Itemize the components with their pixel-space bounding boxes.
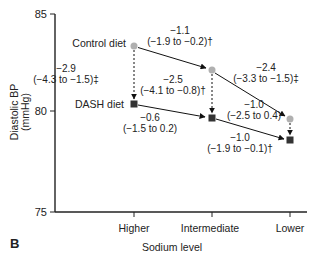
y-tick-85: 85 bbox=[35, 8, 47, 20]
annot-diff-lower-value: −1.0 bbox=[244, 99, 264, 110]
annot-dash-int-low-value: −1.0 bbox=[230, 132, 250, 143]
annot-diff-intermediate-value: −2.5 bbox=[163, 74, 183, 85]
control-point-lower bbox=[287, 116, 294, 123]
dash-point-lower bbox=[287, 137, 294, 144]
x-axis-label: Sodium level bbox=[142, 241, 202, 253]
y-tick-80: 80 bbox=[35, 105, 47, 117]
annot-dash-hi-int-ci: (−1.5 to 0.2) bbox=[123, 123, 177, 134]
annot-control-int-low-ci: (−3.3 to −1.5)‡ bbox=[233, 73, 299, 84]
x-tick-higher: Higher bbox=[119, 222, 150, 234]
dash-point-intermediate bbox=[209, 115, 216, 122]
control-point-higher bbox=[131, 43, 138, 50]
label-dash-diet: DASH diet bbox=[75, 98, 124, 110]
y-tick-75: 75 bbox=[35, 206, 47, 218]
dash-point-higher bbox=[131, 101, 138, 108]
annot-control-int-low-value: −2.4 bbox=[256, 62, 276, 73]
annot-diff-intermediate-ci: (−4.1 to −0.8)† bbox=[140, 85, 206, 96]
y-axis: 85 80 75 Diastolic BP (mmHg) bbox=[8, 8, 55, 218]
x-tick-intermediate: Intermediate bbox=[181, 222, 240, 234]
panel-label: B bbox=[10, 236, 19, 251]
annot-diff-higher-ci: (−4.3 to −1.5)‡ bbox=[33, 74, 99, 85]
annot-diff-lower-ci: (−2.5 to 0.4) bbox=[227, 110, 281, 121]
annot-diff-higher-value: −2.9 bbox=[56, 63, 76, 74]
control-point-intermediate bbox=[209, 67, 216, 74]
x-tick-lower: Lower bbox=[276, 222, 305, 234]
annot-control-hi-int-ci: (−1.9 to −0.2)† bbox=[147, 36, 213, 47]
annot-control-hi-int-value: −1.1 bbox=[170, 25, 190, 36]
annot-dash-hi-int-value: −0.6 bbox=[140, 112, 160, 123]
y-axis-label-line2: (mmHg) bbox=[19, 93, 31, 131]
chart: 85 80 75 Diastolic BP (mmHg) Higher Inte… bbox=[0, 0, 309, 260]
annot-dash-int-low-ci: (−1.9 to −0.1)† bbox=[207, 143, 273, 154]
x-axis: Higher Intermediate Lower Sodium level bbox=[55, 212, 307, 253]
label-control-diet: Control diet bbox=[72, 37, 126, 49]
